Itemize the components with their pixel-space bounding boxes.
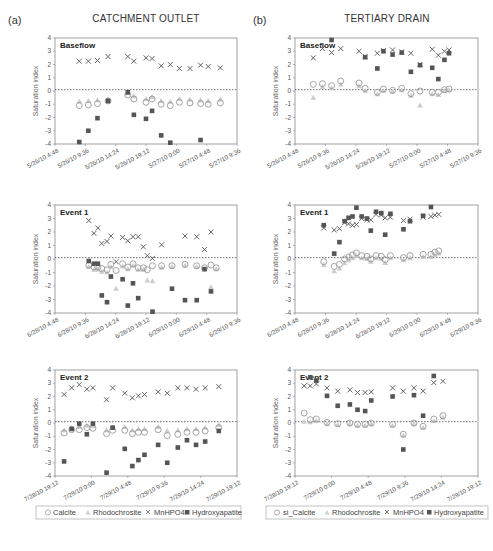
- hydroxyapatite-point: [106, 99, 111, 104]
- hydroxyapatite-point: [442, 58, 447, 63]
- y-tick-label: 4: [47, 34, 51, 41]
- y-axis-label: Saturation index: [272, 397, 279, 448]
- x-tick-label: 5/26/10 4:48: [266, 146, 300, 169]
- y-tick-label: -4: [285, 309, 291, 316]
- hydroxyapatite-point: [325, 394, 330, 399]
- y-tick-label: 4: [287, 366, 291, 373]
- scatter-panel-a1: 43210-1-2-3-4Saturation index5/26/10 4:4…: [26, 34, 242, 170]
- panel-label: Baseflow: [300, 41, 336, 50]
- x-tick-label: 5/27/10 9:36: [208, 146, 242, 169]
- y-tick-label: 0: [287, 419, 291, 426]
- hydroxyapatite-point: [77, 140, 82, 145]
- hydroxyapatite-point: [136, 458, 141, 463]
- hydroxyapatite-point: [95, 116, 100, 121]
- hydroxyapatite-marker-icon: [185, 510, 190, 515]
- y-axis-label: Saturation index: [272, 233, 279, 284]
- hydroxyapatite-point: [401, 227, 406, 232]
- hydroxyapatite-point: [130, 464, 135, 469]
- x-tick-label: 5/27/10 0:00: [388, 146, 422, 169]
- hydroxyapatite-point: [126, 303, 131, 308]
- y-tick-label: 1: [287, 74, 291, 81]
- y-tick-label: 1: [287, 406, 291, 413]
- y-tick-label: -3: [285, 459, 291, 466]
- hydroxyapatite-point: [217, 429, 222, 434]
- hydroxyapatite-point: [150, 109, 155, 114]
- y-tick-label: 3: [47, 215, 51, 222]
- hydroxyapatite-point: [308, 375, 313, 380]
- x-tick-label: 6/28/10 4:48: [26, 315, 60, 338]
- y-tick-label: 2: [287, 228, 291, 235]
- hydroxyapatite-point: [401, 447, 406, 452]
- y-tick-label: -1: [285, 432, 291, 439]
- y-tick-label: 0: [47, 419, 51, 426]
- hydroxyapatite-point: [431, 374, 436, 379]
- legend-label-hydroxyapatite: Hydroxyapatite: [434, 508, 484, 517]
- x-tick-label: 6/29/10 4:48: [418, 315, 452, 338]
- x-tick-label: 7/29/10 9:36: [376, 478, 410, 501]
- hydroxyapatite-point: [390, 394, 395, 399]
- hydroxyapatite-point: [369, 398, 374, 403]
- hydroxyapatite-marker-icon: [427, 510, 432, 515]
- y-tick-label: -4: [45, 472, 51, 479]
- column-title-tertiary-drain: TERTIARY DRAIN: [344, 13, 430, 24]
- y-tick-label: -4: [285, 472, 291, 479]
- hydroxyapatite-point: [354, 205, 359, 210]
- hydroxyapatite-point: [194, 443, 199, 448]
- hydroxyapatite-point: [355, 407, 360, 412]
- y-axis-label: Saturation index: [32, 397, 39, 448]
- y-tick-label: 4: [287, 34, 291, 41]
- scatter-panel-b3: 43210-1-2-3-4Saturation index7/28/10 19:…: [263, 366, 483, 502]
- y-tick-label: 3: [47, 379, 51, 386]
- hydroxyapatite-point: [87, 259, 92, 264]
- y-tick-label: 3: [287, 47, 291, 54]
- x-tick-label: 5/27/10 0:00: [147, 146, 181, 169]
- x-tick-label: 6/28/10 19:12: [114, 315, 151, 339]
- hydroxyapatite-point: [168, 140, 173, 145]
- x-tick-label: 6/29/10 0:00: [147, 315, 181, 338]
- hydroxyapatite-point: [337, 240, 342, 245]
- hydroxyapatite-point: [436, 77, 441, 82]
- y-tick-label: -1: [45, 100, 51, 107]
- hydroxyapatite-point: [105, 300, 110, 305]
- legend-label-calcite: Calcite: [53, 508, 76, 517]
- legend-label-hydroxyapatite: Hydroxyapatite: [192, 508, 242, 517]
- plot-area: [55, 370, 237, 476]
- y-tick-label: -1: [285, 100, 291, 107]
- hydroxyapatite-point: [421, 413, 426, 418]
- hydroxyapatite-point: [329, 38, 334, 43]
- x-tick-label: 7/29/10 4:48: [99, 478, 133, 501]
- y-tick-label: -2: [285, 282, 291, 289]
- y-tick-label: 1: [47, 242, 51, 249]
- panel-label: Event 2: [60, 373, 89, 382]
- x-tick-label: 6/28/10 19:12: [354, 315, 391, 339]
- legend-label-si-calcite: si_Calcite: [283, 508, 316, 517]
- y-tick-label: 2: [47, 61, 51, 68]
- y-tick-label: -1: [45, 432, 51, 439]
- y-tick-label: 1: [47, 406, 51, 413]
- x-tick-label: 6/29/10 0:00: [388, 315, 422, 338]
- hydroxyapatite-point: [85, 432, 90, 437]
- x-tick-label: 6/28/10 4:48: [266, 315, 300, 338]
- x-tick-label: 7/28/10 19:12: [263, 478, 300, 502]
- plot-area: [295, 370, 478, 476]
- hydroxyapatite-point: [381, 49, 386, 54]
- y-tick-label: -4: [45, 140, 51, 147]
- hydroxyapatite-point: [96, 261, 101, 266]
- hydroxyapatite-point: [126, 90, 131, 95]
- y-tick-label: 2: [47, 393, 51, 400]
- plot-area: [55, 205, 237, 313]
- plot-area: [55, 38, 237, 144]
- hydroxyapatite-point: [203, 439, 208, 444]
- hydroxyapatite-point: [350, 214, 355, 219]
- x-tick-label: 5/27/10 4:48: [418, 146, 452, 169]
- y-tick-label: -2: [45, 114, 51, 121]
- x-tick-label: 7/29/10 9:36: [135, 478, 169, 501]
- y-tick-label: 3: [287, 379, 291, 386]
- hydroxyapatite-point: [77, 421, 82, 426]
- y-axis-label: Saturation index: [32, 233, 39, 284]
- y-tick-label: -2: [285, 446, 291, 453]
- y-tick-label: 4: [47, 201, 51, 208]
- x-tick-label: 5/26/10 19:12: [354, 146, 391, 170]
- hydroxyapatite-point: [369, 228, 374, 233]
- panel-label: Event 1: [300, 208, 329, 217]
